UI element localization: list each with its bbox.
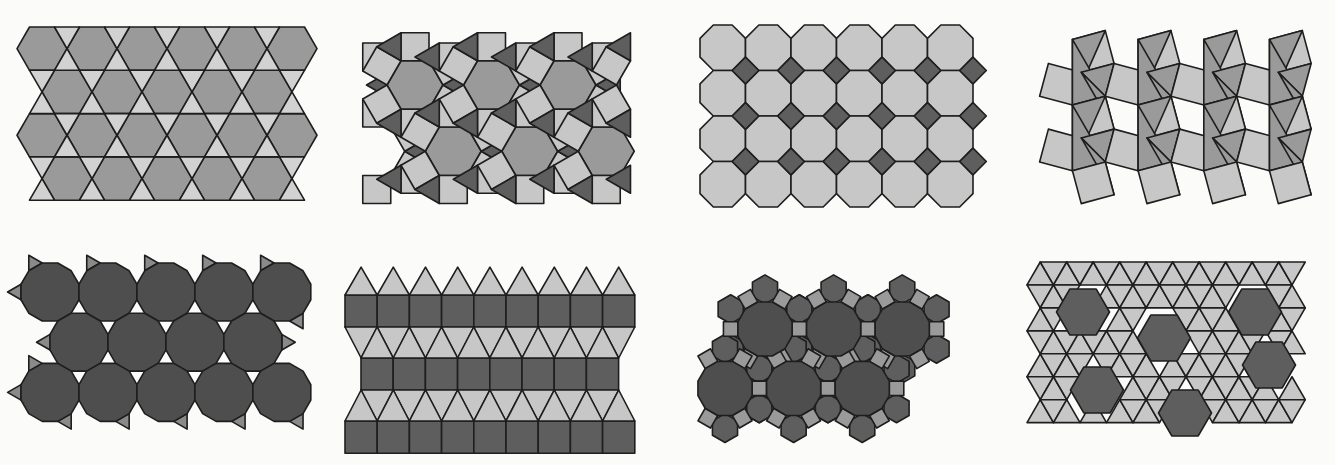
elongated-triangular-tiling-graphic (345, 263, 637, 453)
tiling-4-6-12: Truncated trihexagonal tiling (695, 263, 985, 453)
triangle (377, 267, 409, 295)
dodecagon (698, 361, 752, 415)
square (361, 358, 393, 390)
tiling-3-3-3-3-6: Snub hexagonal tiling (1025, 262, 1315, 447)
truncated-hexagonal-tiling-graphic (20, 260, 300, 452)
tiling-3-6-3-6: Trihexagonal tiling (16, 26, 316, 216)
triangle (474, 267, 506, 295)
square (570, 421, 602, 453)
dodecagon (137, 263, 195, 321)
dodecagon (21, 263, 79, 321)
dodecagon (50, 313, 108, 371)
triangle (506, 267, 538, 295)
triangle (37, 334, 50, 350)
snub-square-tiling-graphic (1026, 23, 1318, 209)
square (570, 295, 602, 327)
dodecagon (875, 302, 929, 356)
dodecagon (195, 363, 253, 421)
tiling-3-4-6-4: Rhombitrihexagonal tiling (360, 30, 650, 210)
dodecagon (224, 313, 282, 371)
square (889, 381, 904, 396)
dodecagon (767, 361, 821, 415)
triangle (442, 267, 474, 295)
dodecagon (253, 263, 311, 321)
square (377, 421, 409, 453)
square (538, 295, 570, 327)
square (409, 421, 441, 453)
square (442, 421, 474, 453)
dodecagon (738, 302, 792, 356)
square (821, 381, 836, 396)
tiling-3-3-4-3-4: Snub square tiling (1026, 23, 1318, 209)
dodecagon (807, 302, 861, 356)
triangle (282, 334, 295, 350)
square (345, 295, 377, 327)
square (522, 358, 554, 390)
triangle (570, 267, 602, 295)
rhombitrihexagonal-tiling-graphic (360, 30, 650, 210)
square (792, 322, 807, 337)
square (442, 295, 474, 327)
square (861, 322, 876, 337)
dodecagon (195, 263, 253, 321)
dodecagon (137, 363, 195, 421)
tiling-4-8-8: Truncated square tiling (698, 23, 988, 213)
square (345, 421, 377, 453)
truncated-trihexagonal-tiling-graphic (695, 263, 985, 453)
dodecagon (21, 363, 79, 421)
dodecagon (166, 313, 224, 371)
dodecagon (108, 313, 166, 371)
square (603, 295, 635, 327)
dodecagon (79, 363, 137, 421)
triangle (409, 267, 441, 295)
square (458, 358, 490, 390)
square (554, 358, 586, 390)
truncated-square-tiling-graphic (698, 23, 988, 213)
trihexagonal-tiling-graphic (16, 26, 316, 216)
square (474, 421, 506, 453)
triangle (8, 385, 21, 401)
tiling-3-3-3-4-4: Elongated triangular tiling (345, 263, 637, 453)
square (393, 358, 425, 390)
square (929, 322, 944, 337)
tiling-3-12-12: Truncated hexagonal tiling (20, 260, 300, 452)
dodecagon (79, 263, 137, 321)
square (506, 295, 538, 327)
square (409, 295, 441, 327)
square (723, 322, 738, 337)
square (538, 421, 570, 453)
triangle (345, 267, 377, 295)
triangle (538, 267, 570, 295)
square (603, 421, 635, 453)
square (506, 421, 538, 453)
square (474, 295, 506, 327)
snub-hexagonal-tiling-graphic (1025, 262, 1315, 447)
square (752, 381, 767, 396)
dodecagon (835, 361, 889, 415)
triangle (603, 267, 635, 295)
dodecagon (253, 363, 311, 421)
square (490, 358, 522, 390)
square (586, 358, 618, 390)
square (425, 358, 457, 390)
square (377, 295, 409, 327)
triangle (8, 284, 21, 300)
